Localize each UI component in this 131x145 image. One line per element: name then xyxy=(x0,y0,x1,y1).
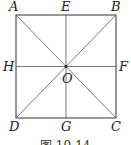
label-g: G xyxy=(61,119,71,134)
label-b: B xyxy=(110,0,121,14)
figure-caption: 图 10-14 xyxy=(40,139,91,145)
label-f: F xyxy=(118,59,129,74)
square-diagram: A E B H F O D G C 图 10-14 xyxy=(0,0,131,145)
label-e: E xyxy=(60,0,71,14)
label-a: A xyxy=(8,0,18,14)
center-point-o xyxy=(65,65,68,68)
label-h: H xyxy=(2,59,15,74)
label-o: O xyxy=(62,71,73,86)
label-c: C xyxy=(111,119,121,134)
label-d: D xyxy=(8,119,20,134)
